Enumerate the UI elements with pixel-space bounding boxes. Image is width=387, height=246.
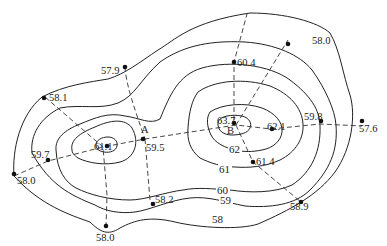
point-58-0-left: 58.0 <box>12 172 36 186</box>
svg-text:62.1: 62.1 <box>267 121 285 132</box>
svg-text:59: 59 <box>220 194 232 206</box>
point-61-1: 61.1 <box>94 141 112 152</box>
svg-text:61: 61 <box>219 163 230 175</box>
svg-text:61.4: 61.4 <box>256 156 275 167</box>
contour-label-62: 62 <box>228 143 242 155</box>
point-57-6: 57.6 <box>359 119 377 134</box>
contour-label-61: 61 <box>218 163 232 175</box>
svg-text:60.4: 60.4 <box>237 57 256 68</box>
point-58-0-top: 58.0 <box>286 35 331 46</box>
svg-text:58.0: 58.0 <box>312 35 330 46</box>
point-60-4: 60.4 <box>232 57 256 68</box>
svg-text:57.6: 57.6 <box>359 123 377 134</box>
svg-text:58.9: 58.9 <box>290 201 308 212</box>
point-58-2: 58.2 <box>151 194 174 206</box>
svg-text:58.0: 58.0 <box>96 232 114 243</box>
contour-diagram: 62 61 60 59 58 58.0 57.9 60.4 58.1 63.7 … <box>0 0 387 246</box>
point-58-0-bottom: 58.0 <box>96 224 114 243</box>
svg-text:59.8: 59.8 <box>304 111 322 122</box>
svg-text:59.5: 59.5 <box>146 142 164 153</box>
svg-text:62: 62 <box>229 143 240 155</box>
point-61-4: 61.4 <box>251 156 275 167</box>
point-58-9: 58.9 <box>290 200 308 212</box>
point-58-1: 58.1 <box>42 92 68 103</box>
profile-line-5 <box>236 40 288 125</box>
point-59-8: 59.8 <box>304 111 323 123</box>
label-B: B <box>227 125 234 136</box>
point-62-1: 62.1 <box>267 121 285 132</box>
label-A: A <box>141 124 149 135</box>
contour-label-58: 58 <box>211 213 225 225</box>
contour-61-main <box>188 81 303 167</box>
svg-text:61.1: 61.1 <box>94 141 112 152</box>
svg-text:59.7: 59.7 <box>31 149 49 160</box>
point-59-5: 59.5 <box>141 137 165 153</box>
point-59-7: 59.7 <box>31 149 50 162</box>
profile-line-1 <box>45 97 107 228</box>
contour-label-59: 59 <box>219 194 233 206</box>
svg-text:58: 58 <box>212 213 224 225</box>
svg-text:57.9: 57.9 <box>101 65 119 76</box>
point-57-9: 57.9 <box>101 65 127 76</box>
svg-text:58.2: 58.2 <box>155 194 173 205</box>
svg-text:58.0: 58.0 <box>17 175 35 186</box>
svg-text:58.1: 58.1 <box>49 92 67 103</box>
